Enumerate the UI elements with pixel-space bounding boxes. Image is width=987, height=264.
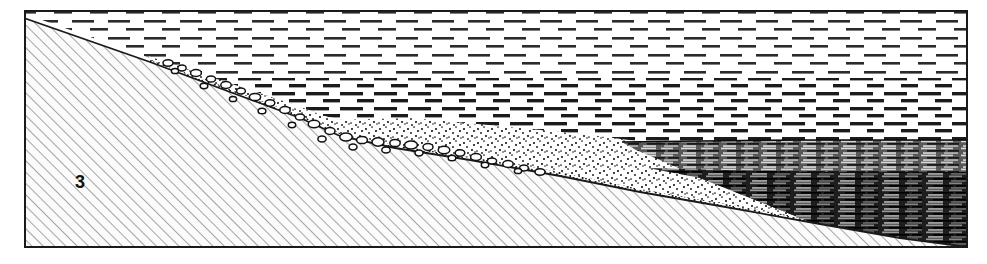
section-body: 3 xyxy=(20,8,980,260)
unit-label-3: 3 xyxy=(75,172,85,192)
geological-cross-section-figure: 3 xyxy=(0,0,987,264)
cross-section-canvas: 3 xyxy=(0,0,987,264)
